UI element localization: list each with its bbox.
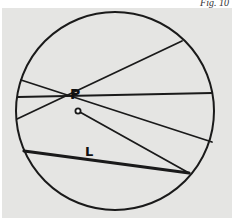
- chord-L: [24, 151, 189, 173]
- chord-through-P-3: [17, 41, 182, 119]
- chord-through-P-2: [18, 93, 212, 97]
- chord-L-label: L: [85, 144, 93, 159]
- circle-diagram: P L: [0, 0, 235, 218]
- point-P-marker: [75, 108, 80, 113]
- point-P-label: P: [70, 86, 80, 102]
- segment-P-to-L-end: [78, 111, 189, 173]
